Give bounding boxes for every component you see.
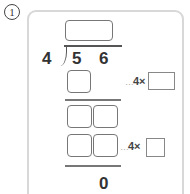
difference-ones-box[interactable] (93, 105, 118, 128)
hint-1: …4× (125, 76, 146, 87)
problem-number-label: 1 (9, 7, 15, 18)
divisor: 4 (42, 50, 51, 67)
quotient-answer-box[interactable] (65, 20, 113, 41)
product-box-2-tens[interactable] (67, 134, 92, 157)
hint-answer-box-1[interactable] (148, 72, 175, 90)
hint-dots: … (125, 77, 133, 87)
subtraction-line-2 (65, 165, 121, 167)
problem-number: 1 (4, 4, 20, 20)
difference-tens-box[interactable] (67, 105, 92, 128)
product-box-2-ones[interactable] (93, 134, 118, 157)
hint-text: 4× (133, 75, 146, 87)
dividend-ones: 6 (99, 50, 108, 67)
subtraction-line-1 (65, 99, 121, 101)
hint-dots: … (120, 142, 128, 152)
division-bar (64, 45, 122, 47)
remainder: 0 (99, 175, 108, 192)
hint-text: 4× (128, 140, 141, 152)
dividend-tens: 5 (72, 50, 81, 67)
hint-answer-box-2[interactable] (146, 138, 165, 157)
product-box-1[interactable] (67, 70, 91, 93)
hint-2: …4× (120, 141, 141, 152)
